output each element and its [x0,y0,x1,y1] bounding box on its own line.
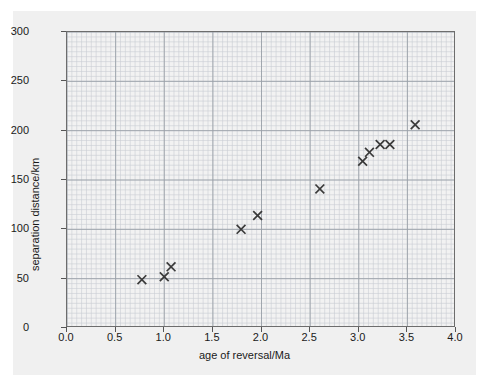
y-tick-mark [61,80,66,81]
y-axis-label: separation distance/km [29,158,41,271]
x-tick-mark [309,327,310,332]
x-tick-label: 1.0 [156,331,171,343]
x-tick-label: 0.5 [107,331,122,343]
x-tick-label: 4.0 [447,331,462,343]
x-tick-mark [115,327,116,332]
x-tick-label: 3.0 [350,331,365,343]
x-tick-label: 2.0 [253,331,268,343]
y-tick-mark [61,179,66,180]
x-tick-mark [455,327,456,332]
y-tick-label: 100 [11,222,29,234]
x-tick-mark [66,327,67,332]
y-tick-label: 50 [17,272,29,284]
y-tick-label: 0 [23,321,29,333]
x-tick-mark [406,327,407,332]
y-tick-mark [61,31,66,32]
y-tick-mark [61,228,66,229]
figure-panel: 0.00.51.01.52.02.53.03.54.0 050100150200… [13,11,476,375]
plot-wrapper: 0.00.51.01.52.02.53.03.54.0 050100150200… [13,11,476,375]
x-tick-mark [212,327,213,332]
x-tick-label: 0.0 [58,331,73,343]
plot-area [66,31,455,327]
y-tick-label: 200 [11,124,29,136]
x-tick-mark [163,327,164,332]
x-tick-label: 2.5 [301,331,316,343]
y-tick-mark [61,327,66,328]
y-tick-mark [61,130,66,131]
x-tick-label: 3.5 [399,331,414,343]
data-point-marker [253,211,262,220]
y-tick-label: 150 [11,173,29,185]
x-tick-mark [358,327,359,332]
x-tick-label: 1.5 [204,331,219,343]
x-tick-mark [261,327,262,332]
y-tick-label: 250 [11,74,29,86]
scatter-plot-svg [67,32,455,327]
x-axis-label: age of reversal/Ma [13,349,476,361]
y-tick-label: 300 [11,25,29,37]
data-point-marker [358,157,367,166]
y-tick-mark [61,278,66,279]
